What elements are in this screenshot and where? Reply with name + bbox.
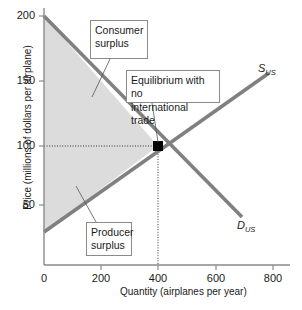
equilibrium-marker <box>153 141 163 151</box>
producer-surplus-callout-line2: surplus <box>91 239 127 252</box>
y-tick-label-200: 200 <box>5 9 35 21</box>
consumer-surplus-callout: Consumer surplus <box>90 20 148 59</box>
producer-surplus-callout-line1: Producer <box>91 226 127 239</box>
supply-curve-label-sub: US <box>265 68 275 77</box>
producer-surplus-callout: Producer surplus <box>86 222 132 256</box>
demand-curve-label-sub: US <box>245 225 255 234</box>
consumer-surplus-callout-line1: Consumer <box>95 24 143 37</box>
chart-figure: 200 150 100 50 0 200 400 600 800 Price (… <box>0 0 302 310</box>
x-axis-title: Quantity (airplanes per year) <box>120 286 247 297</box>
demand-curve-label: DUS <box>237 219 255 234</box>
demand-curve-label-main: D <box>237 219 245 231</box>
equilibrium-callout-line2: international trade <box>131 101 215 128</box>
x-tick-label-600: 600 <box>196 272 236 284</box>
equilibrium-callout: Equilibrium with no international trade <box>126 70 220 103</box>
x-tick-label-0: 0 <box>24 272 64 284</box>
equilibrium-callout-line1: Equilibrium with no <box>131 74 215 101</box>
x-tick-label-800: 800 <box>253 272 293 284</box>
consumer-surplus-callout-line2: surplus <box>95 37 143 50</box>
y-axis-title: Price (millions of dollars per airplane) <box>22 38 33 218</box>
supply-demand-plot <box>0 0 302 310</box>
x-tick-label-200: 200 <box>81 272 121 284</box>
x-tick-label-400: 400 <box>138 272 178 284</box>
supply-curve-label: SUS <box>258 62 276 77</box>
